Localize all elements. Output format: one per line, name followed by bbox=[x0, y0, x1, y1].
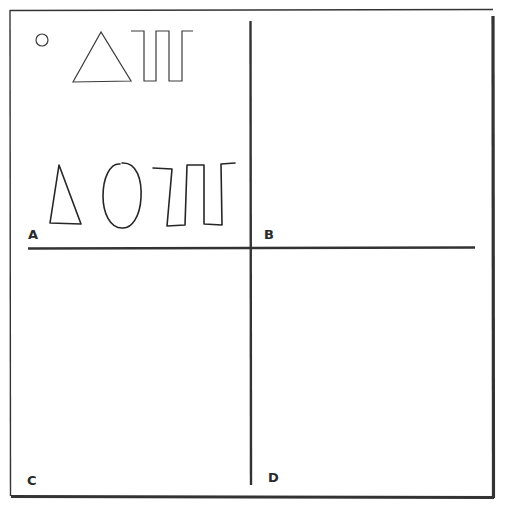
meander-copy bbox=[153, 163, 235, 226]
panel-a bbox=[36, 31, 235, 228]
panel-label-d: D bbox=[268, 471, 279, 484]
triangle-model bbox=[73, 32, 131, 82]
triangle-copy bbox=[50, 165, 81, 224]
figure-canvas bbox=[0, 0, 505, 505]
figure: A B C D bbox=[0, 0, 505, 505]
panel-label-b: B bbox=[264, 228, 274, 241]
small-circle-model bbox=[36, 34, 48, 46]
vertical-divider bbox=[251, 21, 252, 485]
horizontal-divider bbox=[28, 248, 475, 249]
oval-copy bbox=[103, 163, 141, 228]
panel-a-models bbox=[36, 31, 193, 82]
panel-label-a: A bbox=[28, 228, 38, 241]
panel-label-c: C bbox=[27, 474, 37, 487]
panel-a-copies bbox=[50, 163, 235, 228]
meander-model bbox=[131, 31, 193, 81]
